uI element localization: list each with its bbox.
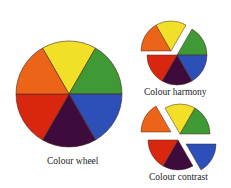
colour-contrast-wheel: [141, 104, 216, 170]
caption-colour-contrast: Colour contrast: [149, 172, 208, 182]
colour-harmony-wheel: [141, 21, 207, 85]
caption-colour-harmony: Colour harmony: [144, 87, 207, 97]
colour-wheel: [16, 41, 122, 147]
caption-colour-wheel: Colour wheel: [47, 156, 98, 166]
